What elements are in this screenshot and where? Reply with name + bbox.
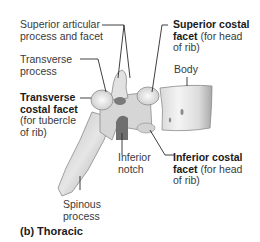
label-transverse-costal-facet: Transverse costal facet (for tubercle of… [20, 92, 78, 138]
superior-articular-process-shape [110, 70, 128, 100]
leader-transverse-process [80, 59, 106, 92]
leader-superior-costal [152, 25, 168, 92]
label-inferior-notch: Inferior notch [118, 152, 151, 175]
vertebral-body-shape [160, 85, 212, 130]
leader-inferior-costal [150, 130, 174, 155]
label-spinous-process: Spinous process [63, 199, 101, 222]
label-transverse-process: Transverse process [20, 54, 72, 77]
label-inferior-costal-facet: Inferior costal facet (for head of rib) [173, 152, 242, 187]
inferior-costal-facet-shape [137, 123, 155, 133]
label-superior-costal-facet: Superior costal facet (for head of rib) [173, 19, 249, 54]
superior-costal-facet-shape [137, 87, 159, 105]
label-superior-articular-process: Superior articular process and facet [20, 19, 103, 42]
label-body: Body [174, 64, 198, 76]
figure-caption: (b) Thoracic [20, 225, 83, 237]
transverse-costal-facet-shape [91, 90, 113, 110]
